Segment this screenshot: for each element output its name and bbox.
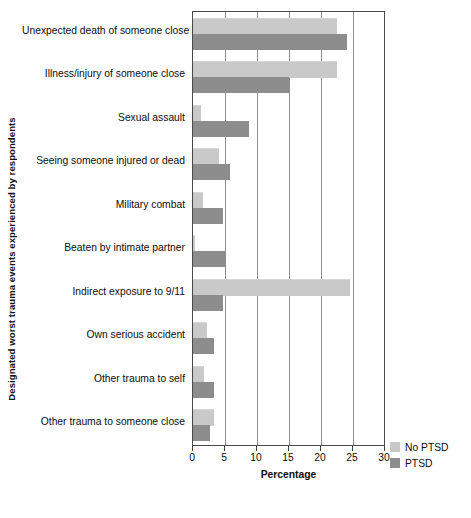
category-label: Own serious accident	[22, 329, 185, 341]
x-tick-label: 20	[314, 452, 325, 463]
x-tick-label: 30	[378, 452, 389, 463]
bar-ptsd	[193, 34, 347, 50]
legend-label: PTSD	[405, 458, 432, 469]
legend: No PTSDPTSD	[390, 440, 464, 472]
gridline-25	[353, 12, 354, 445]
bar-ptsd	[193, 382, 214, 398]
bar-no-ptsd	[193, 322, 207, 339]
y-axis-title: Designated worst trauma events experienc…	[0, 0, 22, 518]
x-tick-label: 5	[221, 452, 227, 463]
bar-no-ptsd	[193, 61, 337, 78]
x-axis-title: Percentage	[192, 469, 385, 480]
category-label: Beaten by intimate partner	[22, 242, 185, 254]
bar-no-ptsd	[193, 235, 195, 252]
bar-ptsd	[193, 77, 289, 93]
legend-item[interactable]: PTSD	[390, 456, 464, 470]
bar-no-ptsd	[193, 18, 337, 35]
bar-no-ptsd	[193, 279, 350, 296]
legend-swatch-icon	[390, 442, 400, 452]
category-label: Illness/injury of someone close	[22, 68, 185, 80]
x-tick-label: 15	[282, 452, 293, 463]
x-tick-label: 10	[250, 452, 261, 463]
x-tickmark	[192, 446, 193, 451]
x-tickmark	[256, 446, 257, 451]
category-label: Other trauma to someone close	[22, 416, 185, 428]
legend-swatch-icon	[390, 458, 400, 468]
x-tickmark	[352, 446, 353, 451]
plot-area	[192, 11, 385, 446]
bar-no-ptsd	[193, 409, 214, 426]
bar-ptsd	[193, 121, 249, 137]
bar-ptsd	[193, 425, 210, 441]
bar-ptsd	[193, 251, 226, 267]
category-label: Indirect exposure to 9/11	[22, 286, 185, 298]
bar-ptsd	[193, 338, 214, 354]
legend-item[interactable]: No PTSD	[390, 440, 464, 454]
x-tickmark	[288, 446, 289, 451]
x-tickmark	[320, 446, 321, 451]
category-label: Sexual assault	[22, 112, 185, 124]
category-label-list: Unexpected death of someone closeIllness…	[22, 11, 189, 446]
bar-ptsd	[193, 295, 223, 311]
category-label: Seeing someone injured or dead	[22, 155, 185, 167]
x-tickmark	[384, 446, 385, 451]
category-label: Unexpected death of someone close	[22, 25, 185, 37]
x-tickmark	[224, 446, 225, 451]
bar-no-ptsd	[193, 148, 219, 165]
x-axis-tick-labels: 051015202530	[192, 452, 385, 466]
bar-no-ptsd	[193, 105, 201, 122]
bar-chart-figure: Designated worst trauma events experienc…	[0, 0, 471, 518]
bar-no-ptsd	[193, 366, 204, 383]
x-tick-label: 25	[346, 452, 357, 463]
category-label: Military combat	[22, 199, 185, 211]
x-axis-tickmarks	[192, 446, 385, 451]
x-tick-label: 0	[189, 452, 195, 463]
category-label: Other trauma to self	[22, 373, 185, 385]
bar-ptsd	[193, 164, 230, 180]
legend-label: No PTSD	[405, 442, 449, 453]
bar-ptsd	[193, 208, 223, 224]
bar-no-ptsd	[193, 192, 203, 209]
